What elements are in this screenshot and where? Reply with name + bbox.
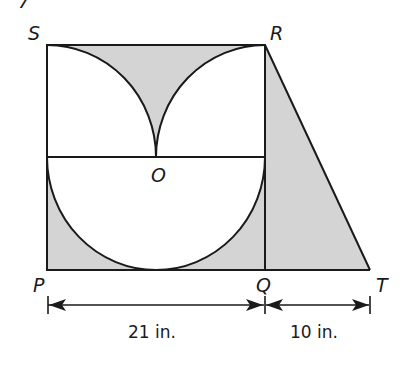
dimension-label-QT: 10 in. <box>290 322 338 342</box>
label-Q: Q <box>256 274 271 296</box>
label-P: P <box>33 274 45 296</box>
label-R: R <box>270 22 283 44</box>
dimension-QT <box>265 296 370 314</box>
geometry-diagram: 7 S R O P Q T 21 in. 10 in. <box>0 0 403 376</box>
shaded-top-region <box>47 45 265 157</box>
label-O: O <box>151 164 166 186</box>
problem-number: 7 <box>18 0 30 12</box>
label-S: S <box>28 22 40 44</box>
dimension-PQ <box>48 296 264 314</box>
label-T: T <box>376 274 389 296</box>
dimension-label-PQ: 21 in. <box>128 322 176 342</box>
